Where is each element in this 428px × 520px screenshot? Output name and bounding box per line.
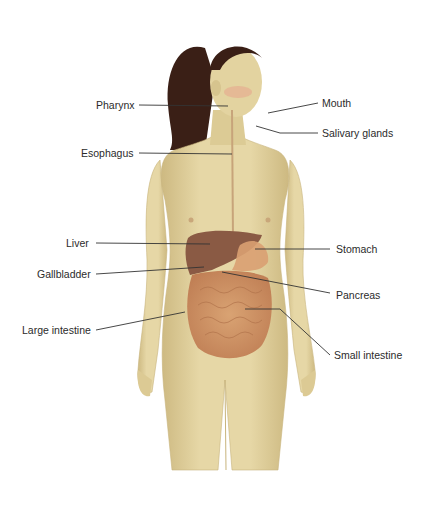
label-gallbladder: Gallbladder: [37, 268, 91, 280]
ear: [211, 80, 221, 96]
label-pharynx: Pharynx: [96, 99, 135, 111]
label-small-intestine: Small intestine: [334, 349, 402, 361]
label-esophagus: Esophagus: [81, 147, 134, 159]
label-liver: Liver: [66, 237, 89, 249]
esophagus-organ: [232, 110, 233, 240]
label-stomach: Stomach: [336, 243, 377, 255]
label-salivary-glands: Salivary glands: [322, 127, 393, 139]
cheek-blush: [224, 86, 252, 98]
label-mouth: Mouth: [322, 97, 351, 109]
intestines-organ: [187, 271, 272, 358]
right-arm: [285, 160, 315, 393]
digestive-system-figure: Pharynx Esophagus Liver Gallbladder Larg…: [0, 0, 428, 520]
hair: [168, 47, 215, 150]
label-large-intestine: Large intestine: [22, 324, 91, 336]
label-pancreas: Pancreas: [336, 289, 380, 301]
anatomy-illustration: [0, 0, 428, 520]
